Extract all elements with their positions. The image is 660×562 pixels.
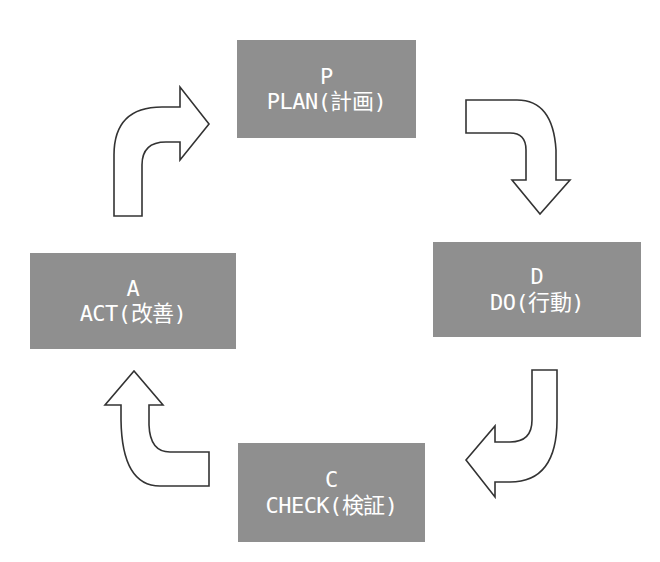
- node-letter: D: [530, 264, 543, 289]
- node-check: C CHECK(検証): [238, 443, 425, 542]
- node-do: D DO(行動): [433, 242, 641, 337]
- node-letter: P: [320, 64, 333, 89]
- node-label: DO(行動): [490, 290, 584, 315]
- node-label: ACT(改善): [80, 301, 187, 326]
- node-label: CHECK(検証): [265, 493, 397, 518]
- node-act: A ACT(改善): [30, 253, 236, 349]
- node-letter: C: [325, 467, 338, 492]
- arrow-check-to-act-icon: [105, 371, 209, 486]
- node-plan: P PLAN(計画): [237, 40, 416, 138]
- arrow-plan-to-do-icon: [466, 100, 570, 214]
- node-label: PLAN(計画): [267, 89, 386, 114]
- arrow-act-to-plan-icon: [114, 87, 209, 216]
- arrow-do-to-check-icon: [466, 370, 557, 497]
- node-letter: A: [126, 276, 139, 301]
